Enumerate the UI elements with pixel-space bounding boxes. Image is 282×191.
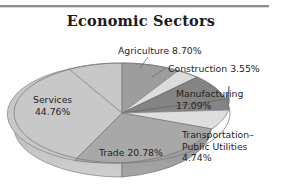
slice-label-transportation-line2: Public Utilities — [182, 141, 254, 153]
slice-label-transportation-line3: 4.74% — [182, 152, 254, 164]
slice-label-manufacturing-name: Manufacturing — [176, 88, 243, 100]
slice-label-construction: Construction 3.55% — [168, 63, 260, 75]
slice-label-services-value: 44.76% — [33, 106, 72, 118]
slice-label-manufacturing-value: 17.09% — [176, 100, 243, 112]
slice-label-services-name: Services — [33, 94, 72, 106]
slice-label-services: Services 44.76% — [33, 94, 72, 117]
slice-label-manufacturing: Manufacturing 17.09% — [176, 88, 243, 111]
chart-page: Economic Sectors — [0, 0, 282, 191]
slice-label-agriculture: Agriculture 8.70% — [118, 45, 202, 57]
slice-label-transportation: Transportation– Public Utilities 4.74% — [182, 129, 254, 164]
slice-label-transportation-line1: Transportation– — [182, 129, 254, 141]
slice-label-trade: Trade 20.78% — [99, 147, 163, 159]
